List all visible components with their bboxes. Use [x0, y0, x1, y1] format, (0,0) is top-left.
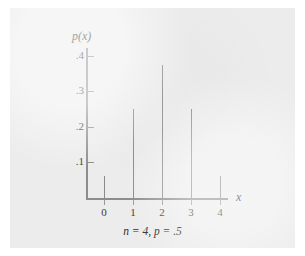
spike-bar-2: [162, 65, 163, 198]
y-tick-label-wrap-2: .3: [60, 85, 84, 97]
y-axis-line: [86, 48, 88, 200]
y-tick-label-0: .1: [64, 156, 84, 167]
y-axis-title: p(x): [72, 30, 91, 42]
y-tick-label-3: .4: [64, 50, 84, 61]
x-tick-label-3: 3: [182, 207, 200, 218]
spike-bar-0: [104, 176, 105, 198]
x-tick-label-2: 2: [153, 207, 171, 218]
figure-panel: p(x) x .1 .2 .3 .4 0 1: [10, 8, 295, 248]
y-tick-mark-3: [88, 56, 94, 57]
y-tick-label-wrap-1: .2: [60, 121, 84, 133]
y-tick-label-wrap-0: .1: [60, 156, 84, 168]
x-tick-label-4: 4: [211, 207, 229, 218]
y-tick-label-2: .3: [64, 85, 84, 96]
y-tick-label-wrap-3: .4: [60, 50, 84, 62]
spike-bar-4: [220, 176, 221, 198]
figure-caption: n = 4, p = .5: [10, 226, 295, 238]
x-tick-mark-3: [191, 200, 192, 205]
figure-page: p(x) x .1 .2 .3 .4 0 1: [0, 0, 305, 256]
x-tick-mark-0: [104, 200, 105, 205]
x-tick-mark-1: [133, 200, 134, 205]
y-tick-mark-0: [88, 162, 94, 163]
y-tick-mark-1: [88, 127, 94, 128]
x-tick-label-1: 1: [124, 207, 142, 218]
x-axis-line: [86, 198, 228, 200]
spike-bar-1: [133, 109, 134, 198]
chart-plot-area: p(x) x .1 .2 .3 .4 0 1: [10, 8, 295, 248]
x-tick-mark-2: [162, 200, 163, 205]
spike-bar-3: [191, 109, 192, 198]
x-tick-mark-4: [220, 200, 221, 205]
x-tick-label-0: 0: [95, 207, 113, 218]
y-tick-label-1: .2: [64, 121, 84, 132]
x-axis-title: x: [236, 191, 241, 203]
y-tick-mark-2: [88, 91, 94, 92]
